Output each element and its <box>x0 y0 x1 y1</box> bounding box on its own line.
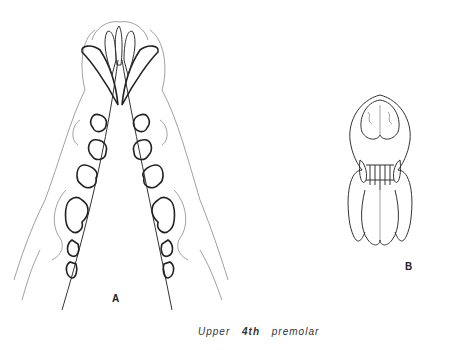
caption-word-3: premolar <box>272 326 319 337</box>
figure-caption: Upper 4th premolar <box>198 326 319 337</box>
panel-label-a: A <box>112 293 119 304</box>
jaw-drawing-a <box>0 0 471 350</box>
caption-word-2: 4th <box>242 326 260 337</box>
panel-label-b: B <box>405 261 412 272</box>
dental-illustration: A B Upper 4th premolar <box>0 0 471 350</box>
caption-word-1: Upper <box>198 326 230 337</box>
